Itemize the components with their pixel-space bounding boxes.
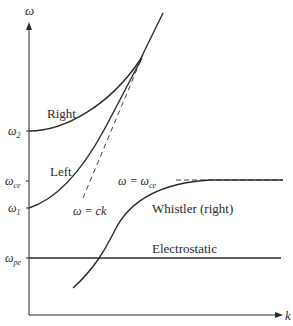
tick-label-omega-1: ω1 <box>8 201 20 217</box>
whistler-label: Whistler (right) <box>152 201 233 216</box>
electrostatic-label: Electrostatic <box>152 241 217 256</box>
dispersion-diagram: ω k ω2 ωce ω1 ωpe Right Left ω = ck ω = … <box>0 0 293 326</box>
tick-label-omega-2: ω2 <box>8 124 20 140</box>
x-axis-label: k <box>285 308 291 323</box>
y-axis-label: ω <box>25 3 34 18</box>
tick-label-omega-ce: ωce <box>5 174 21 190</box>
asymptote-label: ω = ωce <box>118 174 157 190</box>
x-axis-arrow-icon <box>275 312 283 318</box>
whistler-mode-curve <box>73 180 283 288</box>
y-axis-arrow-icon <box>26 22 32 30</box>
left-label: Left <box>50 164 72 179</box>
right-label: Right <box>47 106 76 121</box>
tick-label-omega-pe: ωpe <box>5 251 21 267</box>
light-line-label: ω = ck <box>73 204 107 218</box>
